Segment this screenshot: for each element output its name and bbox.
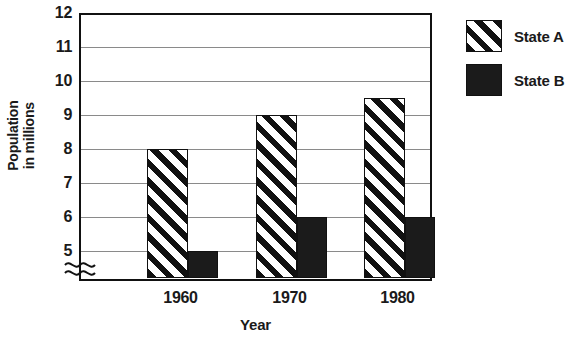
bar-state-a-1960 [147, 149, 188, 279]
legend-label: State B [514, 72, 564, 89]
legend-item: State B [466, 58, 571, 102]
hatched-swatch-icon [466, 20, 502, 52]
x-axis-tick-label: 1960 [136, 289, 226, 307]
x-axis-tick-label: 1980 [353, 289, 443, 307]
x-axis-title: Year [79, 316, 432, 333]
y-axis-tick-label: 9 [46, 107, 72, 123]
bar-state-a-1970 [256, 115, 297, 279]
y-axis-tick-labels: 12111098765 [46, 0, 72, 343]
plot-area [79, 13, 432, 281]
y-axis-tick-label: 10 [46, 73, 72, 89]
bar-state-a-1980 [364, 98, 405, 279]
legend-item: State A [466, 14, 571, 58]
gridline [81, 81, 430, 83]
y-axis-title: Population in millions [6, 76, 37, 196]
solid-swatch-icon [466, 64, 502, 96]
y-axis-tick-label: 6 [46, 209, 72, 225]
y-axis-tick-label: 7 [46, 175, 72, 191]
axis-break-icon [63, 256, 97, 282]
legend-label: State A [514, 28, 564, 45]
x-axis-tick-label: 1970 [245, 289, 335, 307]
y-axis-tick-label: 11 [46, 39, 72, 55]
gridline [81, 47, 430, 49]
bar-state-b-1980 [405, 217, 435, 279]
y-axis-tick-label: 8 [46, 141, 72, 157]
bar-chart: Population in millions 12111098765 19601… [0, 0, 571, 343]
bar-state-b-1970 [297, 217, 327, 279]
y-axis-tick-label: 12 [46, 5, 72, 21]
legend: State AState B [466, 14, 571, 102]
bar-state-b-1960 [188, 251, 218, 279]
